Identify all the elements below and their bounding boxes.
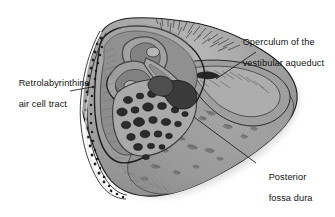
label-operculum-line2: vestibular aqueduct <box>243 58 325 68</box>
label-operculum-line1: Operculum of the <box>243 37 315 47</box>
label-posterior-fossa-dura: Posterior fossa dura <box>258 161 313 214</box>
figure-canvas: Operculum of the vestibular aqueduct Ret… <box>0 0 335 217</box>
label-retrolabyrinthine-air-cell-tract: Retrolabyrinthine air cell tract <box>8 67 90 120</box>
label-retrolabyrinthine-line1: Retrolabyrinthine <box>19 78 90 88</box>
label-dura-line1: Posterior <box>269 172 307 182</box>
label-retrolabyrinthine-line2: air cell tract <box>19 99 67 109</box>
label-operculum-of-vestibular-aqueduct: Operculum of the vestibular aqueduct <box>232 26 324 79</box>
label-dura-line2: fossa dura <box>269 193 313 203</box>
